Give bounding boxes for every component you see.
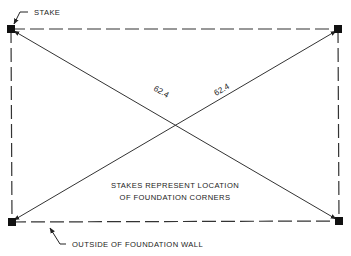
bottom-wall (12, 221, 339, 222)
diagonal-left-length: 62.4 (152, 84, 171, 100)
stake-bottom-left (8, 218, 16, 226)
foundation-layout-diagram: STAKE 62.4 62.4 STAKES REPRESENT LOCATIO… (0, 0, 351, 256)
stake-bottom-right (335, 217, 343, 225)
outside-wall-label: OUTSIDE OF FOUNDATION WALL (72, 240, 203, 249)
diagonal-right-length: 62.4 (213, 82, 232, 98)
wall-leader-icon (50, 228, 66, 244)
diagonals (14, 31, 336, 220)
note-line-2: OF FOUNDATION CORNERS (120, 193, 231, 202)
stake-top-left (7, 25, 15, 33)
stake-label: STAKE (34, 8, 60, 17)
stake-top-right (334, 25, 342, 33)
right-wall (338, 29, 339, 221)
note-line-1: STAKES REPRESENT LOCATION (111, 181, 239, 190)
stake-leader-icon (14, 12, 28, 24)
left-wall (11, 29, 12, 222)
